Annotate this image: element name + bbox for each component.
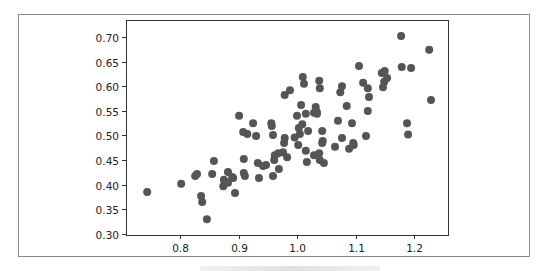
- data-point: [348, 119, 356, 127]
- data-point: [304, 127, 312, 135]
- y-tick-label: 0.70: [96, 32, 119, 44]
- data-point: [338, 134, 346, 142]
- data-point: [268, 122, 276, 130]
- y-tick-label: 0.50: [96, 130, 119, 142]
- y-tick-label: 0.60: [96, 81, 119, 93]
- data-point: [398, 63, 406, 71]
- data-point: [243, 130, 251, 138]
- data-point: [228, 173, 236, 181]
- data-point: [397, 32, 405, 40]
- data-point: [310, 109, 318, 117]
- data-point: [407, 64, 415, 72]
- data-point: [343, 102, 351, 110]
- data-point: [362, 132, 370, 140]
- data-point: [425, 46, 433, 54]
- data-point: [280, 139, 288, 147]
- data-point: [300, 80, 308, 88]
- data-point: [427, 96, 435, 104]
- data-point: [291, 134, 299, 142]
- data-point: [294, 141, 302, 149]
- x-tick-label: 1.2: [406, 242, 423, 254]
- data-point: [208, 170, 216, 178]
- data-point: [345, 145, 353, 153]
- data-point: [275, 165, 283, 173]
- data-point: [210, 157, 218, 165]
- data-point: [231, 189, 239, 197]
- data-point: [283, 153, 291, 161]
- data-point: [331, 143, 339, 151]
- data-point: [404, 131, 412, 139]
- y-tick-label: 0.55: [96, 106, 119, 118]
- data-point: [302, 147, 310, 155]
- data-point: [281, 91, 289, 99]
- x-tick-label: 0.8: [172, 242, 189, 254]
- data-point: [302, 110, 310, 118]
- data-point: [269, 131, 277, 139]
- x-tick-label: 0.9: [231, 242, 248, 254]
- scatter-chart: 0.300.350.400.450.500.550.600.650.70 0.8…: [0, 0, 543, 271]
- data-point: [262, 161, 270, 169]
- data-point: [318, 127, 326, 135]
- data-point: [241, 172, 249, 180]
- data-point: [379, 83, 387, 91]
- y-tick-label: 0.45: [96, 155, 119, 167]
- data-point: [355, 62, 363, 70]
- data-point: [403, 119, 411, 127]
- data-point: [334, 117, 342, 125]
- data-point: [177, 180, 185, 188]
- data-point: [269, 172, 277, 180]
- data-point: [315, 77, 323, 85]
- figure-caption-cutoff: [200, 266, 380, 271]
- data-point: [318, 139, 326, 147]
- x-tick-label: 1.1: [348, 242, 365, 254]
- data-point: [249, 119, 257, 127]
- y-tick-label: 0.65: [96, 57, 119, 69]
- data-point: [364, 84, 372, 92]
- data-point: [198, 198, 206, 206]
- data-point: [252, 132, 260, 140]
- data-point: [336, 88, 344, 96]
- y-tick-label: 0.35: [96, 204, 119, 216]
- data-point: [315, 149, 323, 157]
- x-tick-label: 1.0: [289, 242, 306, 254]
- y-tick-label: 0.30: [96, 229, 119, 241]
- data-point: [203, 215, 211, 223]
- data-point: [143, 188, 151, 196]
- data-point: [235, 112, 243, 120]
- data-point: [270, 156, 278, 164]
- data-point: [240, 155, 248, 163]
- data-point: [364, 107, 372, 115]
- data-point: [297, 101, 305, 109]
- y-axis: 0.300.350.400.450.500.550.600.650.70: [96, 32, 126, 241]
- plot-area: [127, 21, 449, 236]
- data-point: [365, 93, 373, 101]
- data-point: [320, 159, 328, 167]
- x-axis: 0.80.91.01.11.2: [172, 235, 423, 254]
- data-point: [293, 112, 301, 120]
- data-point: [299, 73, 307, 81]
- data-point: [303, 158, 311, 166]
- data-point: [193, 170, 201, 178]
- data-point: [316, 84, 324, 92]
- y-tick-label: 0.40: [96, 180, 119, 192]
- data-point: [255, 174, 263, 182]
